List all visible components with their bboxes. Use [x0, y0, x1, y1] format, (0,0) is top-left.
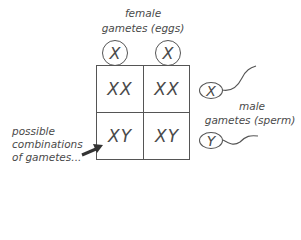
male-label-line2: gametes (sperm) — [205, 114, 296, 127]
sperm-tail-y — [223, 136, 258, 145]
male-label-line1: male — [239, 100, 265, 113]
sperm-tail-x — [222, 66, 256, 90]
annotation-line2: combinations — [12, 138, 83, 151]
male-gamete-y: Y — [199, 132, 223, 149]
annotation-line1: possible — [12, 125, 55, 138]
annotation-line3: of gametes... — [12, 151, 81, 164]
male-gamete-x: X — [199, 82, 223, 99]
arrow-icon — [82, 144, 103, 155]
